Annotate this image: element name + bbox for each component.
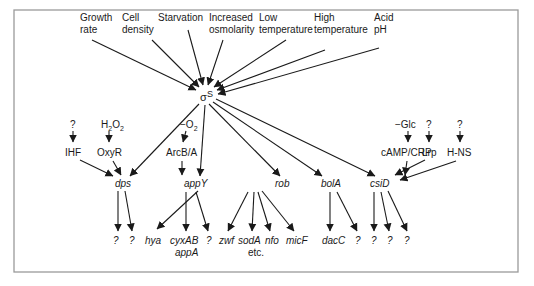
arrow-sigma-to-bolA (213, 102, 322, 176)
arrow-appY-to-unknown (196, 192, 208, 231)
arrow-growth-to-sigma (92, 40, 196, 90)
arrow-acid-to-sigma (218, 48, 379, 94)
arrow-hns-to-csiD (400, 161, 456, 180)
arrow-oxyr-to-dps (113, 161, 121, 175)
gene-csiD: csiD (370, 178, 389, 189)
signal-label-line2: pH (374, 24, 387, 35)
arrow-rob-to-sodA (252, 192, 254, 231)
arrow-crp-to-csiD (405, 161, 407, 175)
signal-label-line2: density (122, 24, 154, 35)
arrow-starvation-to-sigma (188, 30, 203, 85)
arrow-csiD-to-target2 (381, 192, 389, 231)
arrow-ihf-to-dps (80, 160, 113, 176)
gene-bolA: bolA (321, 178, 341, 189)
signal-growth-rate: Growth rate (80, 12, 112, 35)
h2o2-label: H2O2 (101, 119, 124, 132)
sigma-s-regulatory-diagram: Growth rate Cell density Starvation Incr… (0, 0, 534, 286)
lrp-input-label: ? (426, 119, 432, 130)
hns-input-label: ? (457, 119, 463, 130)
target-sodA: sodA (238, 235, 261, 246)
target-etc: etc. (248, 247, 264, 258)
signal-label-line1: Low (259, 12, 278, 23)
arrow-sigma-to-dps (130, 104, 199, 176)
target-cyxAB: cyxAB (170, 235, 199, 246)
signal-high-temperature: High temperature (314, 12, 368, 35)
arrow-osmolarity-to-sigma (208, 40, 223, 85)
signal-label-line1: Acid (374, 12, 393, 23)
signal-label-line2: temperature (314, 24, 368, 35)
sigma-symbol: σ (200, 91, 207, 103)
gene-appY: appY (184, 178, 209, 189)
arrow-rob-to-nfo (258, 192, 270, 231)
figure-frame (14, 10, 518, 272)
signal-label-line1: High (314, 12, 335, 23)
signal-starvation: Starvation (158, 12, 203, 23)
signal-label-line2: osmolarity (209, 24, 255, 35)
target-hya: hya (145, 235, 162, 246)
target-bolA-unknown: ? (355, 235, 361, 246)
target-csiD-unknown-2: ? (387, 235, 393, 246)
gene-dps: dps (115, 178, 131, 189)
arrow-rob-to-zwf (228, 192, 248, 231)
arrow-dps-to-target2 (125, 191, 132, 231)
regulator-ihf: IHF (65, 147, 81, 158)
signal-label-line1: Increased (209, 12, 253, 23)
arrow-csiD-to-target3 (388, 191, 407, 231)
arrow-o2-to-arcba (183, 131, 186, 142)
signal-low-temperature: Low temperature (259, 12, 313, 35)
signal-acid-ph: Acid pH (374, 12, 393, 35)
ihf-input-label: ? (70, 119, 76, 130)
regulator-hns: H-NS (447, 147, 472, 158)
target-csiD-unknown-1: ? (371, 235, 377, 246)
target-dacC: dacC (322, 235, 346, 246)
signal-cell-density: Cell density (122, 12, 154, 35)
regulator-oxyr: OxyR (97, 147, 122, 158)
signal-increased-osmolarity: Increased osmolarity (209, 12, 255, 35)
target-nfo: nfo (265, 235, 279, 246)
sigma-s-node: σ S (200, 89, 213, 103)
minus-o2-label: −O2 (180, 119, 198, 132)
target-zwf: zwf (218, 235, 235, 246)
arrow-hightemp-to-sigma (217, 50, 325, 90)
regulator-lrp: Lrp (422, 147, 437, 158)
signal-label-line1: Starvation (158, 12, 203, 23)
arrow-rob-to-micF (262, 191, 294, 231)
target-appA: appA (175, 247, 199, 258)
arrow-appY-to-hya (157, 191, 198, 229)
target-micF: micF (286, 235, 309, 246)
signal-label-line1: Growth (80, 12, 112, 23)
signal-label-line2: rate (80, 24, 98, 35)
target-dps-unknown-1: ? (113, 235, 119, 246)
gene-rob: rob (275, 178, 290, 189)
arrow-bolA-to-unknown (337, 192, 357, 231)
arrow-sigma-to-appY (200, 105, 205, 176)
target-csiD-unknown-3: ? (404, 235, 410, 246)
signal-label-line1: Cell (122, 12, 139, 23)
glc-label: −Glc (395, 119, 416, 130)
signal-label-line2: temperature (259, 24, 313, 35)
target-dps-unknown-2: ? (129, 235, 135, 246)
sigma-superscript: S (207, 89, 213, 99)
target-appY-unknown: ? (206, 235, 212, 246)
regulator-arcba: ArcB/A (166, 147, 197, 158)
arrow-sigma-to-csiD (216, 99, 375, 176)
arrow-lowtemp-to-sigma (214, 40, 286, 87)
